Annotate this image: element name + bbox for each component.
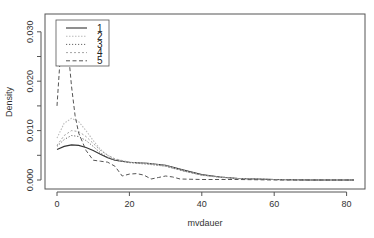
- y-tick-label: 0.020: [25, 70, 35, 93]
- x-axis: 020406080: [54, 192, 351, 209]
- series-line-2: [57, 118, 354, 180]
- series-line-3: [57, 136, 354, 181]
- y-axis-title: Density: [4, 86, 14, 117]
- y-axis: 0.0000.0100.0200.030: [25, 21, 41, 192]
- x-tick-label: 60: [269, 199, 279, 209]
- y-tick-label: 0.000: [25, 169, 35, 192]
- y-tick-label: 0.010: [25, 119, 35, 142]
- density-plot: 020406080 0.0000.0100.0200.030 mvdauer D…: [0, 0, 374, 238]
- x-tick-label: 0: [54, 199, 59, 209]
- x-axis-title: mvdauer: [187, 218, 222, 228]
- x-tick-label: 20: [124, 199, 134, 209]
- y-tick-label: 0.030: [25, 21, 35, 44]
- x-tick-label: 80: [342, 199, 352, 209]
- x-tick-label: 40: [197, 199, 207, 209]
- legend-label-5: 5: [97, 55, 103, 66]
- legend: 12345: [56, 20, 109, 66]
